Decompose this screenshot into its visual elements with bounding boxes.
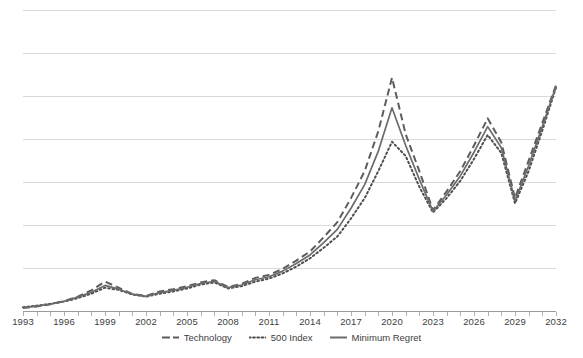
chart-legend: Technology500 IndexMinimum Regret [0,332,583,343]
x-axis-tick-label: 2014 [299,316,321,327]
tick-marks-group [24,312,557,316]
legend-entry[interactable]: 500 Index [249,332,313,343]
x-axis-tick-label: 2032 [545,316,567,327]
x-axis-tick-label: 2029 [504,316,526,327]
x-axis-tick-label: 2008 [217,316,239,327]
x-axis-tick-label: 1993 [12,316,34,327]
x-axis-tick-label: 2011 [259,316,280,327]
x-axis-tick-label: 1999 [94,316,116,327]
x-axis-tick-label: 2017 [340,316,362,327]
series-group [23,78,556,308]
chart-plot-area [0,0,583,358]
legend-label: Minimum Regret [352,332,422,343]
line-chart: 1993199619992002200520082011201420172020… [0,0,583,358]
x-axis-tick-label: 2005 [176,316,198,327]
dotted-line-swatch [249,333,266,342]
x-axis-tick-label: 2026 [463,316,485,327]
x-axis-tick-label: 1996 [53,316,75,327]
dashed-line-swatch [162,333,179,342]
legend-entry[interactable]: Minimum Regret [330,332,422,343]
legend-entry[interactable]: Technology [162,332,232,343]
series-line-technology [23,78,556,308]
series-line-500-index [23,88,556,308]
gridlines-group [23,11,556,269]
legend-label: 500 Index [271,332,313,343]
x-axis-tick-label: 2023 [422,316,444,327]
series-line-minimum-regret [23,86,556,307]
x-axis-tick-label: 2020 [381,316,403,327]
legend-label: Technology [184,332,232,343]
x-axis-tick-label: 2002 [135,316,157,327]
solid-line-swatch [330,333,347,342]
